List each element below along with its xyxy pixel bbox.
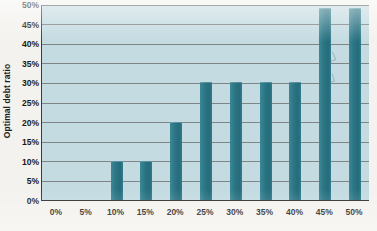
- bar-chart-figure: Optimal debt ratio 0%5%10%15%20%25%30%35…: [0, 0, 377, 231]
- bar: [319, 8, 331, 200]
- y-axis-tick-label: 0%: [11, 196, 39, 206]
- y-axis-tick-label: 50%: [11, 0, 39, 10]
- y-axis-tick-label: 35%: [11, 59, 39, 69]
- plot-inner: [42, 5, 369, 200]
- y-axis-tick-label: 10%: [11, 157, 39, 167]
- bar: [260, 82, 272, 200]
- y-axis-tick-label: 5%: [11, 176, 39, 186]
- bar: [111, 161, 123, 200]
- bar: [289, 82, 301, 200]
- x-axis-tick-labels: 0%5%10%15%20%25%30%35%40%45%50%: [41, 204, 369, 226]
- y-axis-tick-label: 45%: [11, 20, 39, 30]
- plot-area: [41, 5, 369, 201]
- gridline: [42, 5, 369, 6]
- bar: [349, 8, 361, 200]
- y-axis-tick-label: 20%: [11, 118, 39, 128]
- y-axis-tick-label: 30%: [11, 78, 39, 88]
- y-axis-tick-labels: 0%5%10%15%20%25%30%35%40%45%50%: [12, 0, 40, 205]
- bar: [170, 122, 182, 200]
- y-axis-tick-label: 25%: [11, 98, 39, 108]
- bar: [200, 82, 212, 200]
- bar: [140, 161, 152, 200]
- x-axis-tick-label: 50%: [334, 207, 374, 217]
- y-axis-tick-label: 40%: [11, 39, 39, 49]
- bar: [230, 82, 242, 200]
- y-axis-tick-label: 15%: [11, 137, 39, 147]
